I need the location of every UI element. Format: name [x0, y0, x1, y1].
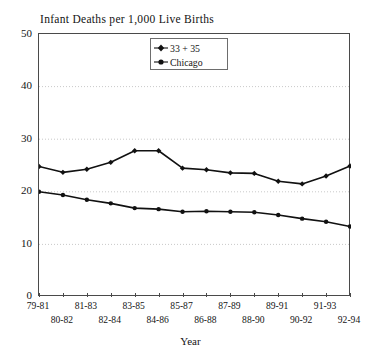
data-point [85, 197, 89, 201]
x-tick-label-88-90: 88-90 [231, 314, 275, 325]
data-point [348, 224, 351, 228]
x-tick-label-80-82: 80-82 [40, 314, 84, 325]
data-point [109, 201, 113, 205]
data-point [276, 179, 281, 184]
x-tick-label-90-92: 90-92 [279, 314, 323, 325]
x-tick-label-82-84: 82-84 [88, 314, 132, 325]
data-point [252, 171, 257, 176]
plot-area [38, 33, 350, 296]
x-tick-label-83-85: 83-85 [112, 300, 156, 311]
y-tick-label-20: 20 [2, 184, 32, 196]
data-point [132, 206, 136, 210]
data-point [204, 167, 209, 172]
x-tick-label-81-83: 81-83 [64, 300, 108, 311]
data-point [39, 164, 42, 169]
data-point [108, 160, 113, 165]
circle-marker-icon [154, 57, 168, 67]
chart-title: Infant Deaths per 1,000 Live Births [40, 13, 214, 25]
data-point [300, 216, 304, 220]
data-point [204, 209, 208, 213]
data-point [60, 170, 65, 175]
data-point [156, 207, 160, 211]
x-tick-label-79-81: 79-81 [16, 300, 60, 311]
plot-canvas [39, 34, 351, 297]
legend-entry-series-2: Chicago [154, 55, 227, 69]
data-point [276, 213, 280, 217]
data-point [252, 210, 256, 214]
legend-entry-series-1: 33 + 35 [154, 41, 227, 55]
series-line-2 [39, 192, 350, 227]
y-tick-label-30: 30 [2, 132, 32, 144]
data-point [299, 181, 304, 186]
data-point [84, 166, 89, 171]
data-point [39, 190, 41, 194]
x-tick-label-89-91: 89-91 [255, 300, 299, 311]
x-tick-label-92-94: 92-94 [327, 314, 371, 325]
x-tick-label-86-88: 86-88 [183, 314, 227, 325]
legend-label-series-1: 33 + 35 [170, 43, 200, 54]
x-tick-label-91-93: 91-93 [303, 300, 347, 311]
gridlines-group [39, 87, 351, 245]
y-tick-label-40: 40 [2, 79, 32, 91]
series-line-1 [39, 151, 350, 184]
data-point [347, 163, 351, 168]
x-tick-label-87-89: 87-89 [207, 300, 251, 311]
data-point [324, 220, 328, 224]
data-point [180, 210, 184, 214]
series-layer [39, 148, 351, 229]
x-axis-ticks-group [40, 293, 351, 297]
infant-mortality-line-chart: Infant Deaths per 1,000 Live Births 50 4… [0, 0, 381, 362]
chart-legend: 33 + 35 Chicago [150, 38, 228, 70]
x-tick-label-85-87: 85-87 [160, 300, 204, 311]
data-point [228, 170, 233, 175]
x-tick-label-84-86: 84-86 [136, 314, 180, 325]
legend-label-series-2: Chicago [170, 57, 203, 68]
y-tick-label-10: 10 [2, 237, 32, 249]
y-tick-label-50: 50 [2, 27, 32, 39]
data-point [323, 173, 328, 178]
data-point [61, 193, 65, 197]
data-point [228, 210, 232, 214]
diamond-marker-icon [154, 43, 168, 53]
data-point [132, 148, 137, 153]
x-axis-title: Year [0, 335, 381, 347]
